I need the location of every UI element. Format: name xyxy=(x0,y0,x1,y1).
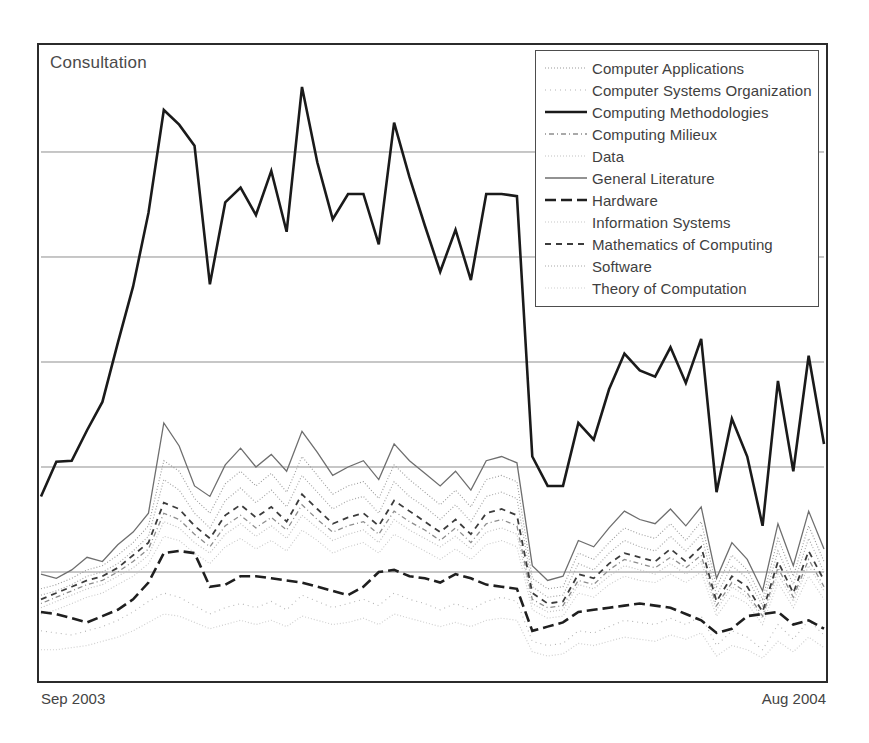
series-line xyxy=(41,530,824,625)
legend-item-label: Software xyxy=(592,259,652,274)
legend-line-swatch-icon xyxy=(544,105,588,119)
legend-line-swatch-icon xyxy=(544,127,588,141)
legend-line-swatch-icon xyxy=(544,259,588,273)
legend-line-swatch-icon xyxy=(544,61,588,75)
legend-line-swatch-icon xyxy=(544,281,588,295)
legend-item-label: Computing Milieux xyxy=(592,127,717,142)
legend-item-label: Computing Methodologies xyxy=(592,105,769,120)
legend-item-label: Information Systems xyxy=(592,215,731,230)
legend-item[interactable]: Information Systems xyxy=(544,211,810,233)
legend-item[interactable]: Computing Milieux xyxy=(544,123,810,145)
legend-item-label: Theory of Computation xyxy=(592,281,747,296)
x-axis-start-label: Sep 2003 xyxy=(41,690,105,707)
x-axis-labels: Sep 2003 Aug 2004 xyxy=(37,690,828,714)
series-line xyxy=(41,505,824,616)
legend-line-swatch-icon xyxy=(544,83,588,97)
legend-item-label: General Literature xyxy=(592,171,715,186)
legend-item-label: Computer Applications xyxy=(592,61,744,76)
legend-line-swatch-icon xyxy=(544,149,588,163)
legend-item[interactable]: Computing Methodologies xyxy=(544,101,810,123)
legend-line-swatch-icon xyxy=(544,193,588,207)
legend-item[interactable]: Computer Systems Organization xyxy=(544,79,810,101)
chart-title: Consultation xyxy=(50,53,147,73)
legend-item[interactable]: Computer Applications xyxy=(544,57,810,79)
legend-item-label: Hardware xyxy=(592,193,658,208)
chart-legend: Computer ApplicationsComputer Systems Or… xyxy=(535,50,819,307)
series-line xyxy=(41,614,824,658)
x-axis-end-label: Aug 2004 xyxy=(762,690,826,707)
legend-item[interactable]: Hardware xyxy=(544,189,810,211)
legend-item[interactable]: Software xyxy=(544,255,810,277)
legend-item[interactable]: Data xyxy=(544,145,810,167)
legend-item-label: Mathematics of Computing xyxy=(592,237,773,252)
chart-figure: Consultation Computer ApplicationsComput… xyxy=(37,43,828,683)
legend-line-swatch-icon xyxy=(544,171,588,185)
legend-item-label: Computer Systems Organization xyxy=(592,83,812,98)
legend-line-swatch-icon xyxy=(544,215,588,229)
legend-item[interactable]: Theory of Computation xyxy=(544,277,810,299)
legend-line-swatch-icon xyxy=(544,237,588,251)
legend-item-label: Data xyxy=(592,149,624,164)
legend-item[interactable]: Mathematics of Computing xyxy=(544,233,810,255)
legend-item[interactable]: General Literature xyxy=(544,167,810,189)
